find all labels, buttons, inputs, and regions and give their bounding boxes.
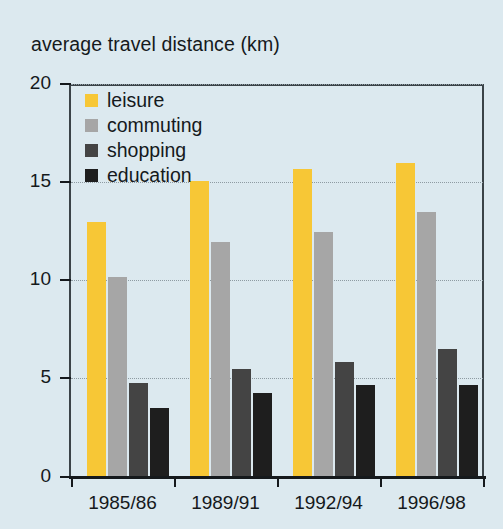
x-tick-mark <box>380 476 382 487</box>
bar-education-1985-86 <box>150 408 169 477</box>
legend-item-shopping: shopping <box>85 138 202 163</box>
bar-commuting-1992-94 <box>314 232 333 477</box>
bar-commuting-1989-91 <box>211 242 230 478</box>
bar-leisure-1996-98 <box>396 163 415 477</box>
x-tick-label: 1989/91 <box>174 492 277 514</box>
legend-label: commuting <box>107 116 202 136</box>
legend-swatch-icon <box>85 94 98 107</box>
legend-label: shopping <box>107 141 186 161</box>
bar-shopping-1989-91 <box>232 369 251 477</box>
chart-page: average travel distance (km) 05101520 19… <box>0 0 503 529</box>
legend-label: education <box>107 166 192 186</box>
legend-swatch-icon <box>85 119 98 132</box>
bar-leisure-1992-94 <box>293 169 312 477</box>
legend-item-education: education <box>85 163 202 188</box>
legend-label: leisure <box>107 91 164 111</box>
x-tick-mark <box>174 476 176 487</box>
bar-education-1989-91 <box>253 393 272 477</box>
bar-shopping-1992-94 <box>335 362 354 477</box>
bar-education-1992-94 <box>356 385 375 477</box>
bar-commuting-1996-98 <box>417 212 436 477</box>
legend-item-leisure: leisure <box>85 88 202 113</box>
bar-commuting-1985-86 <box>108 277 127 477</box>
legend-swatch-icon <box>85 169 98 182</box>
x-tick-label: 1992/94 <box>277 492 380 514</box>
x-tick-mark <box>277 476 279 487</box>
legend-item-commuting: commuting <box>85 113 202 138</box>
bar-leisure-1989-91 <box>190 181 209 477</box>
bars-layer <box>0 0 503 477</box>
legend: leisurecommutingshoppingeducation <box>85 88 202 188</box>
bar-leisure-1985-86 <box>87 222 106 477</box>
x-tick-mark <box>71 476 73 487</box>
x-tick-label: 1985/86 <box>71 492 174 514</box>
x-tick-label: 1996/98 <box>380 492 483 514</box>
x-tick-mark <box>483 476 485 487</box>
bar-shopping-1985-86 <box>129 383 148 477</box>
bar-shopping-1996-98 <box>438 349 457 477</box>
bar-education-1996-98 <box>459 385 478 477</box>
legend-swatch-icon <box>85 144 98 157</box>
